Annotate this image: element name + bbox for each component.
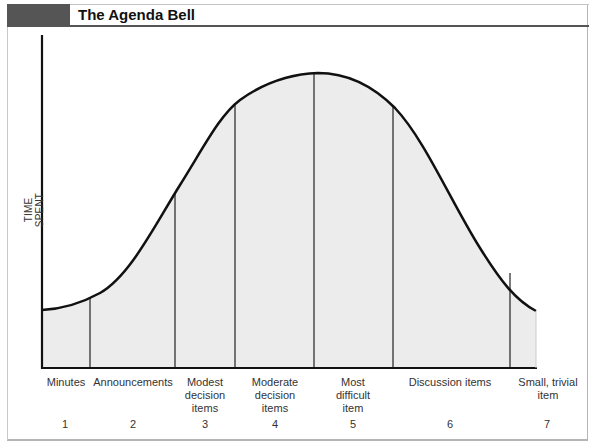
category-number-7: 7 bbox=[532, 418, 562, 430]
label-line: decision bbox=[240, 389, 310, 402]
label-line: Small, trivial bbox=[508, 376, 588, 389]
category-label-moderate-decision: Moderate decision items bbox=[240, 376, 310, 415]
category-number-2: 2 bbox=[118, 418, 148, 430]
category-label-modest-decision: Modest decision items bbox=[175, 376, 235, 415]
category-label-announcements: Announcements bbox=[88, 376, 178, 389]
label-line: items bbox=[175, 402, 235, 415]
label-line: item bbox=[508, 389, 588, 402]
label-line: Discussion items bbox=[395, 376, 505, 389]
label-line: Minutes bbox=[36, 376, 96, 389]
label-line: difficult bbox=[322, 389, 384, 402]
category-number-1: 1 bbox=[50, 418, 80, 430]
label-line: Modest bbox=[175, 376, 235, 389]
label-line: Announcements bbox=[88, 376, 178, 389]
category-number-6: 6 bbox=[435, 418, 465, 430]
category-number-5: 5 bbox=[338, 418, 368, 430]
category-label-most-difficult: Most difficult item bbox=[322, 376, 384, 415]
label-line: items bbox=[240, 402, 310, 415]
label-line: item bbox=[322, 402, 384, 415]
label-line: Most bbox=[322, 376, 384, 389]
category-label-small-trivial: Small, trivial item bbox=[508, 376, 588, 402]
category-number-4: 4 bbox=[260, 418, 290, 430]
label-line: decision bbox=[175, 389, 235, 402]
y-axis-label: TIME SPENT bbox=[23, 180, 45, 240]
category-label-minutes: Minutes bbox=[36, 376, 96, 389]
bell-area bbox=[42, 73, 536, 368]
label-line: Moderate bbox=[240, 376, 310, 389]
category-label-discussion: Discussion items bbox=[395, 376, 505, 389]
category-number-3: 3 bbox=[190, 418, 220, 430]
